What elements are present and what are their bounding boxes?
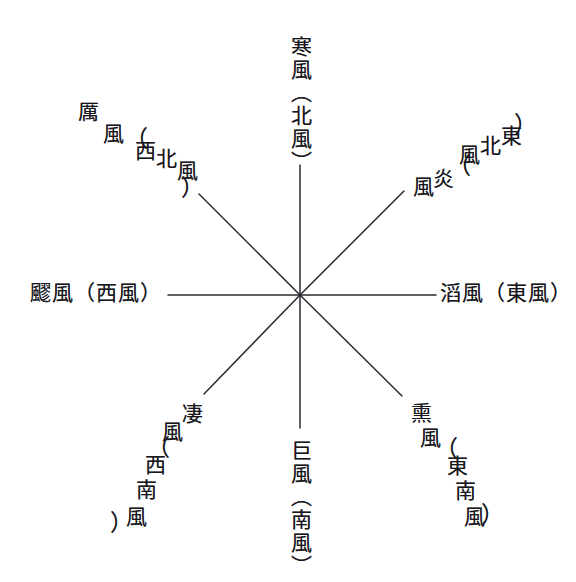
wind-label-southeast-char: 熏 — [411, 403, 432, 424]
wind-label-southeast-char: ） — [481, 504, 504, 527]
wind-label-southeast-char: 南 — [455, 481, 476, 502]
wind-diagram-page: 寒風（北風） 巨風（南風） 飂風（西風） 滔風（東風） 厲 風 （ 西 北 風 … — [0, 0, 576, 582]
wind-label-southeast: 熏 風 （ 東 南 風 ） — [0, 0, 576, 582]
wind-label-southeast-char: 東 — [447, 456, 468, 477]
